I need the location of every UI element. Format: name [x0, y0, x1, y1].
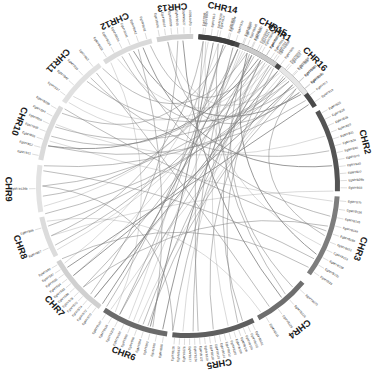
gene-tick — [338, 158, 344, 159]
gene-tick — [203, 28, 204, 34]
gene-tick — [34, 146, 40, 148]
gene-label: EgMYB11 — [17, 149, 31, 156]
gene-tick — [200, 338, 201, 344]
gene-tick — [121, 324, 124, 330]
gene-label: EgMYB55 — [22, 130, 37, 138]
gene-label: EgMYB13 — [210, 13, 216, 27]
gene-tick — [248, 40, 251, 46]
gene-tick — [259, 45, 262, 51]
gene-tick — [278, 309, 282, 314]
gene-tick — [267, 50, 270, 56]
gene-label: EgMYB124 — [193, 346, 198, 362]
gene-tick — [211, 29, 212, 35]
gene-tick — [325, 116, 331, 119]
chromosome-label: CHR9 — [3, 177, 13, 202]
gene-tick — [52, 265, 58, 268]
gene-tick — [128, 39, 130, 45]
gene-tick — [89, 62, 93, 67]
gene-tick — [333, 234, 339, 236]
gene-tick — [300, 290, 305, 294]
gene-label: EgMYB001 — [153, 13, 160, 29]
chromosome-arc-chr11[interactable] — [64, 65, 100, 102]
gene-tick — [174, 338, 175, 344]
synteny-link — [205, 42, 321, 246]
gene-tick — [70, 288, 75, 292]
gene-label: EgMYB29b — [348, 178, 364, 183]
chromosome-arc-chr16[interactable] — [280, 68, 306, 94]
gene-tick — [165, 29, 166, 35]
gene-label: EgMYB160 — [340, 235, 356, 244]
gene-tick — [253, 324, 256, 330]
gene-tick — [305, 84, 310, 88]
gene-label: EgMYB17 — [315, 80, 329, 92]
gene-label: EgMYB33 — [348, 186, 362, 190]
gene-label: EgMYB018 — [92, 36, 104, 51]
gene-tick — [281, 60, 285, 65]
gene-tick — [229, 333, 231, 339]
gene-tick — [102, 314, 106, 319]
gene-label: EgMYB153 — [333, 251, 349, 261]
gene-tick — [339, 166, 345, 167]
gene-tick — [266, 317, 269, 323]
gene-tick — [333, 137, 339, 139]
gene-tick — [248, 326, 251, 332]
gene-tick — [337, 151, 343, 152]
synteny-link — [43, 171, 314, 259]
gene-tick — [134, 330, 136, 336]
gene-tick — [78, 296, 82, 301]
gene-label: EgMYB94 — [135, 338, 143, 353]
gene-label: EgMYB60 — [28, 113, 42, 122]
gene-tick — [271, 53, 275, 58]
gene-label: EgMYB29b — [35, 95, 51, 106]
synteny-link — [212, 48, 233, 326]
gene-label: EgMYB75 — [346, 154, 361, 160]
gene-tick — [111, 47, 114, 53]
gene-label: EgMYB029 — [188, 10, 192, 26]
gene-tick — [66, 284, 71, 288]
gene-tick — [243, 328, 245, 334]
gene-tick — [224, 334, 226, 340]
gene-tick — [244, 38, 246, 44]
gene-label: EgMYB79 — [348, 199, 362, 204]
chromosome-label: CHR14 — [207, 0, 239, 16]
chromosome-arc-chr9[interactable] — [38, 165, 40, 212]
gene-label: EgMYB129 — [281, 314, 294, 329]
gene-tick — [115, 321, 118, 327]
gene-label: EgMYB34 — [342, 138, 357, 146]
gene-tick — [340, 173, 346, 174]
gene-tick — [145, 33, 147, 39]
gene-tick — [335, 144, 341, 146]
gene-label: EgMYB88 — [158, 344, 164, 358]
gene-tick — [55, 270, 60, 274]
gene-tick — [62, 279, 67, 283]
gene-tick — [239, 330, 241, 336]
synteny-link — [45, 81, 289, 213]
gene-label: EgMYB96 — [127, 336, 135, 351]
gene-tick — [43, 121, 49, 124]
gene-label: EgMYB027 — [182, 10, 186, 26]
gene-label: EgMYB042 — [129, 19, 138, 35]
chromosome-arc-chr13[interactable] — [157, 36, 193, 39]
synteny-link — [73, 51, 242, 275]
gene-label: EgMYB062 — [139, 16, 147, 32]
circos-canvas: EgMYB86EgMYB13EgMYB14EgMYB05EgMYB16EgMYB… — [0, 0, 376, 371]
gene-tick — [337, 218, 343, 219]
gene-label: EgMYB90 — [150, 342, 157, 357]
gene-tick — [310, 91, 315, 95]
gene-tick — [43, 248, 49, 251]
gene-label: EgMYB58 — [25, 122, 40, 131]
gene-tick — [37, 137, 43, 139]
chromosome-arc-chr10[interactable] — [41, 107, 61, 160]
gene-label: EgMYB122 — [198, 346, 203, 362]
gene-label: EgMYB37 — [47, 81, 61, 93]
gene-tick — [217, 30, 218, 36]
gene-tick — [220, 30, 221, 36]
chromosome-label: CHR13 — [157, 1, 188, 14]
chromosome-arc-chr14[interactable] — [198, 37, 234, 44]
gene-tick — [340, 201, 346, 202]
gene-label: EgMYB130 — [324, 267, 340, 279]
gene-label: EgMYB151 — [337, 243, 353, 253]
gene-tick — [155, 335, 156, 341]
gene-label: EgMYB123 — [305, 293, 319, 307]
gene-tick — [128, 327, 130, 333]
